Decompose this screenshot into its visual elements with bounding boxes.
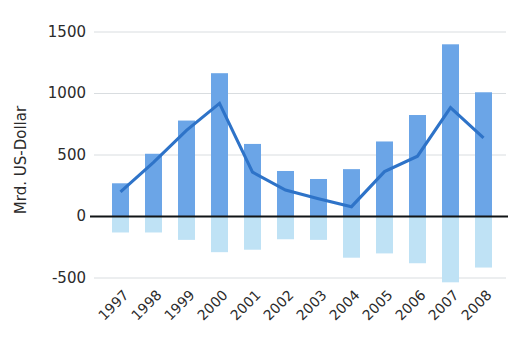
bar-reflection-2005 [376,217,393,254]
y-axis-tick-labels: 150010005000-500 [48,23,86,287]
y-tick-label-500: 500 [57,146,86,164]
bar-2001 [244,144,261,217]
x-tick-label-2004: 2004 [326,287,363,324]
x-tick-label-2007: 2007 [425,287,462,324]
x-tick-label-1999: 1999 [161,287,198,324]
bar-2007 [442,44,459,216]
bar-reflection-2002 [277,217,294,240]
y-tick-label--500: -500 [52,269,86,287]
y-axis-title: Mrd. US-Dollar [12,105,30,214]
bar-reflection-2003 [310,217,327,240]
bar-reflection-1997 [112,217,129,233]
bar-2002 [277,171,294,217]
bar-2000 [211,73,228,216]
bar-reflection-2004 [343,217,360,258]
x-tick-label-2008: 2008 [458,287,495,324]
bar-reflection-1999 [178,217,195,240]
x-tick-label-2001: 2001 [227,287,264,324]
bar-reflection-1998 [145,217,162,233]
bar-reflection-2008 [475,217,492,268]
x-tick-label-2005: 2005 [359,287,396,324]
x-tick-label-1997: 1997 [95,287,132,324]
x-tick-label-2002: 2002 [260,287,297,324]
y-tick-label-1500: 1500 [48,23,86,41]
x-axis-tick-labels: 1997199819992000200120022003200420052006… [95,287,495,324]
y-axis-title-text: Mrd. US-Dollar [12,105,30,214]
bar-reflection-2000 [211,217,228,253]
y-tick-label-0: 0 [76,207,86,225]
bar-2008 [475,92,492,216]
x-tick-label-2006: 2006 [392,287,429,324]
bar-reflection-2006 [409,217,426,264]
bar-reflections [112,217,492,283]
chart-container: 150010005000-500 19971998199920002001200… [0,0,513,340]
x-tick-label-1998: 1998 [128,287,165,324]
bar-2006 [409,115,426,216]
bar-line-combo-chart: 150010005000-500 19971998199920002001200… [0,0,513,340]
x-tick-label-2000: 2000 [194,287,231,324]
y-tick-label-1000: 1000 [48,84,86,102]
bar-2004 [343,169,360,216]
bar-reflection-2007 [442,217,459,283]
bar-reflection-2001 [244,217,261,250]
x-tick-label-2003: 2003 [293,287,330,324]
